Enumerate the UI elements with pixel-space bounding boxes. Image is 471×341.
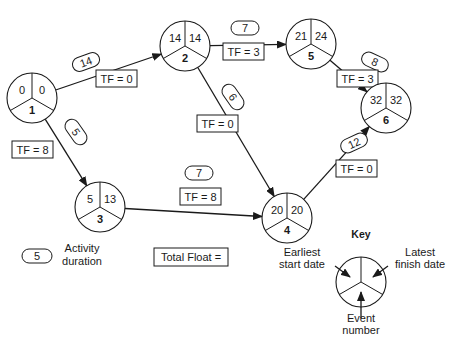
- legend-duration-sample: 5: [34, 250, 40, 262]
- event-number: 5: [308, 50, 314, 62]
- event-number: 4: [284, 224, 291, 236]
- event-node-1: 001: [7, 73, 57, 123]
- activity-arrow-3-4: [125, 209, 262, 217]
- total-float-value: TF = 0: [201, 118, 233, 130]
- earliest-start-date: 0: [19, 84, 25, 96]
- key: Key Earliest start date Latest finish da…: [279, 228, 445, 336]
- earliest-start-date: 14: [169, 32, 181, 44]
- duration-value: 7: [242, 22, 248, 34]
- duration-pill-2-5: 7: [231, 21, 259, 35]
- total-float-value: TF = 3: [227, 46, 259, 58]
- legend-total-float: Total Float =: [154, 248, 228, 266]
- latest-finish-date: 13: [104, 193, 116, 205]
- network-diagram: 14TF = 05TF = 87TF = 36TF = 07TF = 88TF …: [0, 0, 471, 341]
- earliest-start-date: 20: [271, 204, 283, 216]
- total-float-value: TF = 8: [184, 191, 216, 203]
- event-node-5: 21245: [286, 19, 336, 69]
- duration-pill-1-3: 5: [62, 117, 90, 148]
- total-float-box-1-3: TF = 8: [12, 141, 53, 158]
- earliest-start-date: 21: [295, 30, 307, 42]
- legend-float-label: Total Float =: [161, 251, 221, 263]
- duration-pill-4-6: 12: [338, 131, 369, 156]
- total-float-box-1-2: TF = 0: [96, 70, 137, 87]
- key-title: Key: [351, 228, 370, 240]
- total-float-box-2-4: TF = 0: [197, 115, 238, 132]
- event-node-6: 32326: [361, 83, 411, 133]
- event-node-3: 5133: [75, 182, 125, 232]
- legend-duration: 5 Activity duration: [22, 242, 102, 267]
- duration-value: 7: [196, 167, 202, 179]
- total-float-value: TF = 8: [16, 144, 48, 156]
- latest-finish-date: 32: [390, 94, 402, 106]
- duration-pill-3-4: 7: [185, 166, 213, 180]
- event-node-2: 14142: [160, 21, 210, 71]
- event-number: 1: [29, 104, 35, 116]
- event-number: 6: [383, 114, 389, 126]
- total-float-box-4-6: TF = 0: [336, 160, 377, 177]
- duration-pill-2-4: 6: [219, 82, 247, 113]
- latest-finish-date: 14: [189, 32, 201, 44]
- earliest-start-date: 5: [87, 193, 93, 205]
- legend-duration-label-line2: duration: [62, 255, 102, 267]
- total-float-value: TF = 0: [100, 73, 132, 85]
- latest-finish-date: 0: [39, 84, 45, 96]
- key-latest-label-line2: finish date: [395, 258, 445, 270]
- key-earliest-label-line2: start date: [279, 258, 325, 270]
- latest-finish-date: 20: [291, 204, 303, 216]
- event-node-4: 20204: [262, 193, 312, 243]
- key-event-label-line2: number: [342, 324, 380, 336]
- legend-duration-label-line1: Activity: [65, 242, 100, 254]
- total-float-value: TF = 0: [340, 163, 372, 175]
- total-float-value: TF = 3: [341, 73, 373, 85]
- event-number: 3: [97, 213, 103, 225]
- total-float-box-3-4: TF = 8: [180, 188, 221, 205]
- key-event-label-line1: Event: [347, 312, 375, 324]
- key-latest-label-line1: Latest: [405, 246, 435, 258]
- latest-finish-date: 24: [315, 30, 327, 42]
- earliest-start-date: 32: [370, 94, 382, 106]
- event-number: 2: [182, 52, 188, 64]
- total-float-box-5-6: TF = 3: [337, 70, 378, 87]
- key-earliest-label-line1: Earliest: [284, 246, 321, 258]
- total-float-box-2-5: TF = 3: [223, 43, 264, 60]
